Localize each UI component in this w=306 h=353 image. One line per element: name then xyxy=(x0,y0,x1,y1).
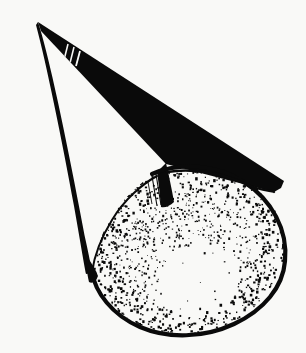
cone-figure xyxy=(0,0,306,353)
illustration-canvas xyxy=(0,0,306,353)
